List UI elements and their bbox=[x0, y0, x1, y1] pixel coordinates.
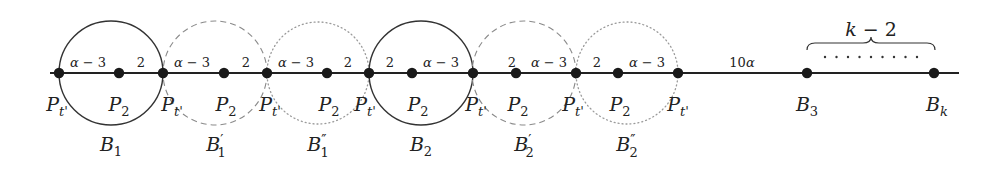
edge-weight-label: 2 bbox=[386, 55, 394, 70]
node-label: Pt' bbox=[561, 93, 584, 119]
path-node bbox=[802, 68, 812, 78]
path-node bbox=[407, 68, 417, 78]
ellipsis-dot bbox=[858, 56, 860, 58]
path-node bbox=[54, 68, 64, 78]
node-labels: Pt'P2Pt'P2Pt'P2Pt'P2Pt'P2Pt'P2Pt'B3Bk bbox=[45, 93, 948, 119]
node-label: P2 bbox=[608, 93, 630, 119]
ellipsis-dot bbox=[870, 56, 872, 58]
edge-weight-label: α − 3 bbox=[423, 55, 459, 70]
ellipsis-dot bbox=[916, 56, 918, 58]
edge-weight-label: 2 bbox=[344, 55, 352, 70]
block-label: B″2 bbox=[615, 132, 637, 160]
ellipsis-dot bbox=[893, 56, 895, 58]
path-node bbox=[114, 68, 124, 78]
path-node bbox=[158, 68, 168, 78]
ellipsis-dot bbox=[824, 56, 826, 58]
brace-label: k − 2 bbox=[845, 18, 897, 40]
diagram-canvas: α − 32α − 32α − 322α − 32α − 32α − 310α … bbox=[0, 0, 997, 172]
edge-weight-labels: α − 32α − 32α − 322α − 32α − 32α − 310α bbox=[70, 55, 755, 70]
edge-weight-label: 10α bbox=[729, 55, 755, 70]
block-label: B′1 bbox=[205, 132, 225, 160]
node-label: P2 bbox=[506, 93, 528, 119]
block-label: B″1 bbox=[306, 132, 328, 160]
block-labels: B1B′1B″1B2B′2B″2 bbox=[99, 132, 638, 160]
edge-weight-label: α − 3 bbox=[278, 55, 314, 70]
path-node bbox=[262, 68, 272, 78]
path-node bbox=[322, 68, 332, 78]
edge-weight-label: α − 3 bbox=[531, 55, 567, 70]
ellipsis-dot bbox=[904, 56, 906, 58]
block-label: B2 bbox=[409, 133, 432, 159]
node-label: Pt' bbox=[160, 93, 183, 119]
edge-weight-label: 2 bbox=[242, 55, 250, 70]
path-node bbox=[364, 68, 374, 78]
node-label: Pt' bbox=[464, 93, 487, 119]
path-node bbox=[468, 68, 478, 78]
block-label: B′2 bbox=[513, 132, 533, 160]
edge-weight-label: α − 3 bbox=[174, 55, 210, 70]
path-node bbox=[219, 68, 229, 78]
node-label: P2 bbox=[406, 93, 428, 119]
path-node bbox=[571, 68, 581, 78]
edge-weight-label: 2 bbox=[137, 55, 145, 70]
edge-weight-label: 2 bbox=[593, 55, 601, 70]
block-node-label: Bk bbox=[925, 93, 948, 119]
node-label: Pt' bbox=[666, 93, 689, 119]
node-label: Pt' bbox=[258, 93, 281, 119]
node-label: P2 bbox=[214, 93, 236, 119]
path-diagram: α − 32α − 32α − 322α − 32α − 32α − 310α … bbox=[0, 0, 997, 172]
node-label: P2 bbox=[107, 93, 129, 119]
node-label: P2 bbox=[317, 93, 339, 119]
ellipsis-dot bbox=[847, 56, 849, 58]
edge-weight-label: α − 3 bbox=[629, 55, 665, 70]
path-node bbox=[929, 68, 939, 78]
ellipsis-dot bbox=[835, 56, 837, 58]
path-node bbox=[511, 68, 521, 78]
path-node bbox=[673, 68, 683, 78]
edge-weight-label: α − 3 bbox=[70, 55, 106, 70]
ellipsis-dot bbox=[881, 56, 883, 58]
block-node-label: B3 bbox=[795, 93, 818, 119]
node-label: Pt' bbox=[353, 93, 376, 119]
edge-weight-label: 2 bbox=[508, 55, 516, 70]
k-minus-2-brace: k − 2 bbox=[807, 18, 935, 58]
block-label: B1 bbox=[99, 133, 122, 159]
path-node bbox=[613, 68, 623, 78]
